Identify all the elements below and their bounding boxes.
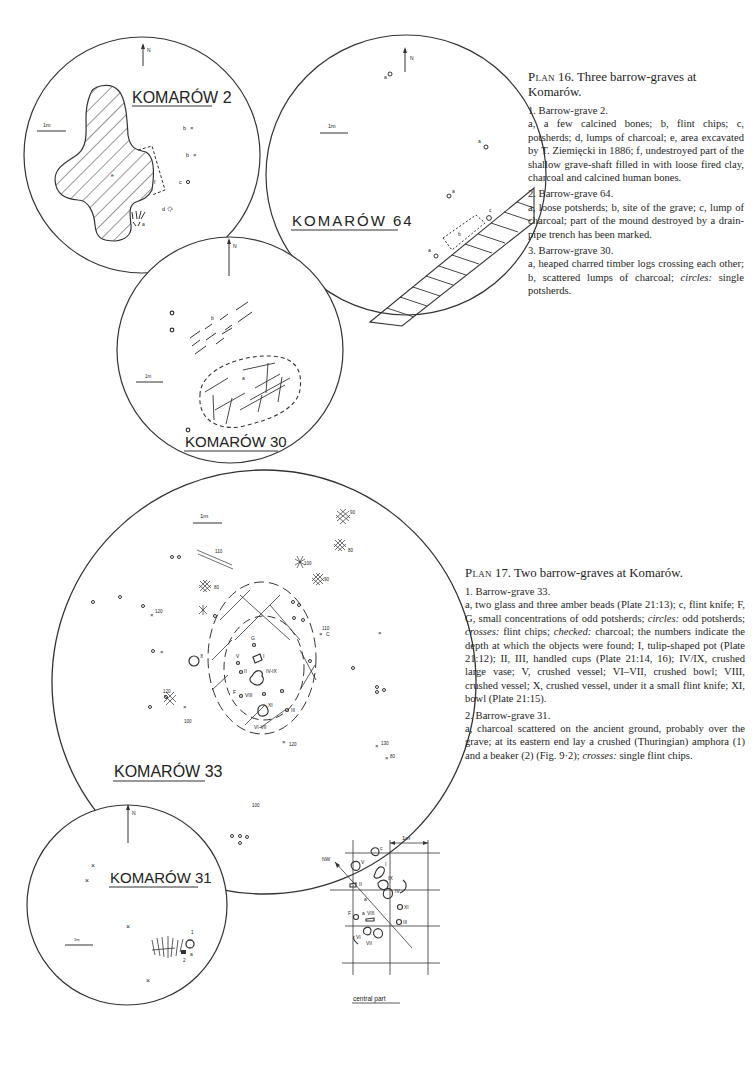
scale-bar: 1m <box>37 122 66 131</box>
svg-text:×: × <box>282 739 286 745</box>
svg-text:d: d <box>162 206 165 212</box>
svg-text:III: III <box>403 919 407 925</box>
item-heading: 1. Barrow-grave 2. <box>528 104 744 117</box>
svg-text:V: V <box>361 859 365 865</box>
svg-text:110: 110 <box>215 549 223 554</box>
svg-text:×: × <box>183 704 187 710</box>
svg-text:IV: IV <box>395 888 400 894</box>
svg-text:100: 100 <box>184 719 192 724</box>
svg-text:C: C <box>326 631 330 637</box>
svg-text:VII: VII <box>366 940 372 946</box>
svg-text:G: G <box>251 635 255 641</box>
svg-text:a: a <box>452 188 455 194</box>
svg-text:NW: NW <box>322 856 331 862</box>
plan-17-caption: Plan 17. Two barrow-graves at Komarów. 1… <box>465 566 745 762</box>
svg-text:130: 130 <box>381 741 389 746</box>
svg-text:×: × <box>190 125 194 131</box>
svg-text:c: c <box>179 179 182 185</box>
svg-text:×: × <box>160 649 164 655</box>
mound-outline <box>27 805 227 1005</box>
item-text: a, a few calcined bones; b, flint chips;… <box>528 117 744 184</box>
plan-komarow-30: N 1m b a KOMARÓW 30 <box>117 237 343 463</box>
svg-text:120: 120 <box>289 742 297 747</box>
site-label: KOMARÓW 64 <box>292 212 414 229</box>
svg-text:X: X <box>200 653 204 659</box>
item-heading: 2. Barrow-grave 64. <box>528 187 744 200</box>
svg-text:V: V <box>236 653 240 659</box>
item-text: a, two glass and three amber beads (Plat… <box>465 598 745 705</box>
site-label: KOMARÓW 30 <box>185 433 287 450</box>
svg-text:XI: XI <box>404 904 409 910</box>
north-arrow-icon: N <box>141 43 151 66</box>
svg-text:b: b <box>458 231 461 237</box>
svg-text:1m: 1m <box>328 123 336 129</box>
item-heading: 3. Barrow-grave 30. <box>528 244 744 257</box>
excavated-area-e <box>55 85 153 241</box>
svg-text:×: × <box>85 877 89 884</box>
item-heading: 2. Barrow-grave 31. <box>465 709 745 722</box>
svg-text:80: 80 <box>390 754 396 759</box>
svg-text:80: 80 <box>348 548 354 553</box>
svg-text:80: 80 <box>214 585 220 590</box>
svg-text:II: II <box>359 881 362 887</box>
svg-text:×: × <box>126 923 130 930</box>
plan-central-part: 1m NW c V I IX IV II <box>322 835 440 1003</box>
svg-text:120: 120 <box>163 689 171 694</box>
direction-arrow-icon: NW <box>322 856 412 948</box>
svg-text:b: b <box>186 152 189 158</box>
north-arrow-icon: N <box>403 47 414 72</box>
svg-text:1m: 1m <box>402 835 410 841</box>
svg-text:×: × <box>150 612 154 618</box>
site-label: KOMARÓW 33 <box>114 762 223 780</box>
svg-text:VI-VII: VI-VII <box>254 724 267 730</box>
site-label: KOMARÓW 2 <box>132 88 232 106</box>
svg-text:II: II <box>244 668 247 674</box>
svg-text:a: a <box>242 375 245 381</box>
svg-text:a: a <box>364 896 367 902</box>
svg-text:N: N <box>410 55 414 61</box>
svg-text:×: × <box>385 755 389 761</box>
svg-text:×: × <box>91 862 95 869</box>
svg-text:a: a <box>478 138 481 144</box>
svg-text:1m: 1m <box>200 513 208 519</box>
svg-text:100: 100 <box>252 803 260 808</box>
item-heading: 1. Barrow-grave 33. <box>465 585 745 598</box>
svg-text:90: 90 <box>350 510 356 515</box>
svg-text:I: I <box>385 861 386 867</box>
svg-text:1m: 1m <box>145 374 152 379</box>
svg-text:b: b <box>183 125 186 131</box>
svg-text:a: a <box>428 247 431 253</box>
svg-text:×: × <box>146 977 150 984</box>
svg-text:XI: XI <box>268 702 273 708</box>
plan-16-title: Plan 16. Three barrow-graves at Komarów. <box>528 70 744 100</box>
svg-text:1m: 1m <box>43 122 51 128</box>
svg-text:a: a <box>384 74 387 80</box>
svg-text:III: III <box>291 707 295 713</box>
svg-text:a: a <box>362 910 365 916</box>
central-part-label: central part <box>353 995 386 1003</box>
svg-text:90: 90 <box>324 577 330 582</box>
svg-text:1m: 1m <box>74 937 80 942</box>
scale-bar: 1m <box>320 123 348 133</box>
plan-17-title: Plan 17. Two barrow-graves at Komarów. <box>465 566 745 581</box>
svg-text:N: N <box>233 243 237 249</box>
item-text: a, heaped charred timber logs crossing e… <box>528 257 744 297</box>
svg-text:f: f <box>154 179 156 185</box>
svg-text:120: 120 <box>155 609 163 614</box>
svg-text:a: a <box>190 951 193 957</box>
svg-text:b: b <box>211 315 214 321</box>
svg-text:×: × <box>375 743 379 749</box>
item-text: a, charcoal scattered on the ancient gro… <box>465 722 745 762</box>
site-label: KOMARÓW 31 <box>110 869 212 886</box>
svg-text:VIII: VIII <box>245 692 253 698</box>
charcoal-grid <box>212 590 316 728</box>
scale-bar: 1m <box>390 835 428 845</box>
svg-text:VIII: VIII <box>367 910 375 916</box>
svg-text:N: N <box>147 47 151 53</box>
svg-text:I: I <box>263 653 264 659</box>
svg-text:F: F <box>233 689 236 695</box>
svg-text:F: F <box>348 910 351 916</box>
svg-text:IX: IX <box>388 875 393 881</box>
charcoal-patches <box>164 509 350 705</box>
drain-pipe-trench <box>370 188 534 326</box>
